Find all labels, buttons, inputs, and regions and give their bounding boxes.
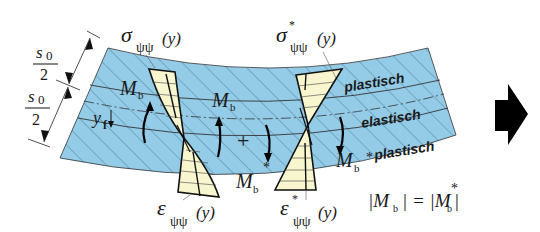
svg-text:ε: ε xyxy=(280,195,289,220)
svg-text:b: b xyxy=(354,162,360,174)
plus-sign: + xyxy=(237,128,249,153)
svg-text:σ: σ xyxy=(276,22,288,47)
svg-text:|M: |M xyxy=(368,190,390,211)
svg-text:(y): (y) xyxy=(317,29,336,48)
bending-stress-diagram: s 0 2 s 0 2 σ ψψ (y) σ * ψψ (y) ε ψψ (y)… xyxy=(0,0,540,232)
svg-text:*: * xyxy=(289,18,295,32)
svg-text:*: * xyxy=(366,150,373,165)
svg-text:2: 2 xyxy=(40,66,48,83)
svg-text:ψψ: ψψ xyxy=(136,40,154,55)
svg-text:s: s xyxy=(28,87,35,106)
svg-text:| = |M: | = |M xyxy=(402,190,452,211)
svg-text:ψψ: ψψ xyxy=(170,214,188,229)
svg-text:0: 0 xyxy=(46,48,53,63)
svg-text:s: s xyxy=(36,43,43,62)
svg-text:(y): (y) xyxy=(318,203,337,222)
svg-text:(y): (y) xyxy=(196,203,215,222)
moment-equation: |M b | = |M b * | xyxy=(368,181,459,214)
svg-text:y: y xyxy=(91,108,101,128)
svg-text:M: M xyxy=(335,149,354,171)
svg-text:b: b xyxy=(253,183,259,195)
svg-text:ψψ: ψψ xyxy=(290,40,308,55)
epsilon-label-left: ε ψψ (y) xyxy=(157,195,215,229)
svg-text:|: | xyxy=(455,190,459,211)
svg-text:0: 0 xyxy=(38,92,45,107)
svg-text:*: * xyxy=(263,160,270,175)
svg-text:b: b xyxy=(138,89,144,101)
svg-text:M: M xyxy=(211,89,230,111)
svg-text:ψψ: ψψ xyxy=(293,214,311,229)
svg-text:σ: σ xyxy=(121,22,133,47)
dimension-label-lower: s 0 2 xyxy=(25,87,50,128)
svg-text:b: b xyxy=(393,203,398,214)
svg-text:b: b xyxy=(230,101,236,113)
svg-text:b: b xyxy=(447,203,452,214)
svg-text:*: * xyxy=(292,192,298,206)
svg-text:M: M xyxy=(119,77,138,99)
epsilon-label-right: ε * ψψ (y) xyxy=(280,190,337,229)
svg-text:2: 2 xyxy=(32,111,40,128)
svg-text:(y): (y) xyxy=(162,29,181,48)
arrow-right-icon xyxy=(495,84,528,145)
svg-text:M: M xyxy=(235,170,254,192)
svg-text:ε: ε xyxy=(157,195,166,220)
dimension-label-upper: s 0 2 xyxy=(33,43,58,83)
